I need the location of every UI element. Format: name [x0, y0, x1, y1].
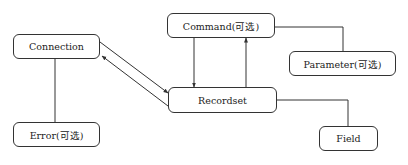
node-parameter-label: Parameter(可选): [304, 57, 382, 71]
node-command-label: Command(可选): [183, 19, 259, 33]
edge-recordset-to-connection: [102, 56, 168, 106]
node-recordset: Recordset: [168, 87, 277, 113]
node-field-label: Field: [336, 133, 360, 144]
ado-object-model-diagram: Command(可选) Connection Parameter(可选) Rec…: [0, 0, 408, 165]
edge-command-to-parameter: [275, 27, 343, 51]
edge-recordset-to-field: [277, 100, 348, 126]
node-connection-label: Connection: [29, 41, 84, 52]
node-error-label: Error(可选): [30, 128, 84, 142]
edge-connection-to-recordset: [100, 42, 168, 93]
node-connection: Connection: [13, 34, 100, 59]
node-field: Field: [319, 126, 378, 151]
node-recordset-label: Recordset: [198, 95, 247, 106]
node-error: Error(可选): [13, 122, 100, 147]
node-parameter: Parameter(可选): [289, 51, 396, 76]
node-command: Command(可选): [167, 13, 275, 38]
